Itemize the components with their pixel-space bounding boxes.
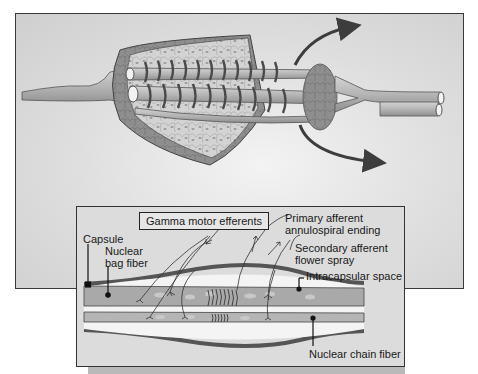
label-primary-afferent: Primary afferent annulospiral ending [285, 212, 380, 236]
spindle-schematic [0, 0, 478, 374]
label-secondary-afferent: Secondary afferent flower spray [295, 242, 388, 266]
label-intracapsular-space: Intracapsular space [306, 270, 402, 282]
label-nuclear-chain-fiber: Nuclear chain fiber [309, 348, 401, 360]
efferent-arrow-icon [206, 228, 220, 244]
nuclear-chain-fiber [84, 312, 364, 322]
label-capsule: Capsule [83, 233, 123, 245]
label-gamma-motor-efferents: Gamma motor efferents [139, 212, 269, 230]
afferent-arrow-2-icon [268, 242, 280, 255]
label-nuclear-bag-fiber: Nuclear bag fiber [105, 245, 148, 269]
